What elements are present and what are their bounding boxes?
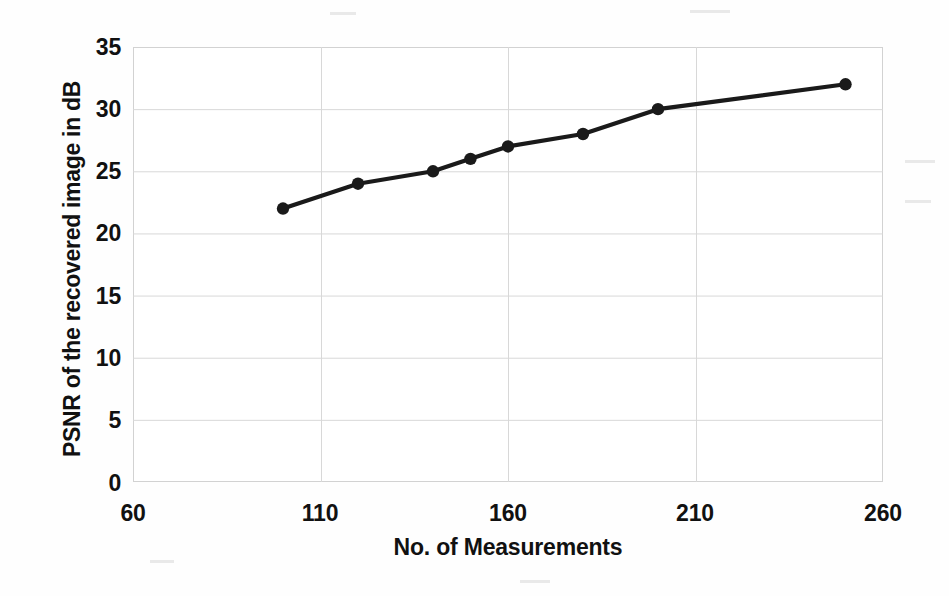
scan-artifact	[690, 10, 730, 13]
y-tick-label-0: 0	[55, 470, 121, 497]
chart-figure: PSNR of the recovered image in dB 35 30 …	[0, 0, 949, 596]
data-point-200-30	[652, 103, 664, 115]
data-point-160-27	[502, 140, 514, 152]
x-tick-label-60: 60	[93, 500, 173, 527]
data-point-100-22	[277, 202, 289, 214]
scan-artifact	[520, 580, 550, 583]
y-tick-label-25: 25	[55, 158, 121, 185]
scan-artifact	[905, 200, 931, 203]
x-axis-tick-labels: 60 110 160 210 260	[0, 500, 949, 534]
x-tick-label-210: 210	[655, 500, 735, 527]
data-point-150-26	[464, 153, 476, 165]
y-tick-label-15: 15	[55, 283, 121, 310]
chart-canvas	[133, 47, 883, 482]
data-point-120-24	[352, 178, 364, 190]
y-tick-label-30: 30	[55, 96, 121, 123]
y-tick-label-35: 35	[55, 34, 121, 61]
x-axis-title: No. of Measurements	[133, 534, 883, 561]
y-tick-label-10: 10	[55, 345, 121, 372]
data-point-180-28	[577, 128, 589, 140]
data-point-250-32	[839, 78, 851, 90]
scan-artifact	[905, 160, 935, 163]
x-tick-label-110: 110	[280, 500, 360, 527]
data-point-140-25	[427, 165, 439, 177]
y-tick-label-20: 20	[55, 220, 121, 247]
plot-area	[133, 47, 883, 482]
y-axis-tick-labels: 35 30 25 20 15 10 5 0	[55, 28, 121, 498]
scan-artifact	[330, 12, 356, 15]
x-tick-label-260: 260	[843, 500, 923, 527]
x-tick-label-160: 160	[468, 500, 548, 527]
y-tick-label-5: 5	[55, 407, 121, 434]
